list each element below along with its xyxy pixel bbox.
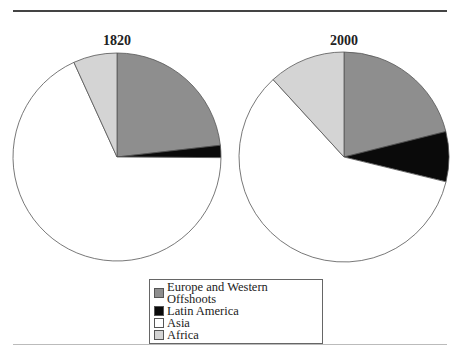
- legend-swatch-latin-america: [154, 306, 164, 316]
- legend-label: Europe and Western Offshoots: [167, 281, 318, 305]
- legend: Europe and Western Offshoots Latin Ameri…: [149, 279, 323, 344]
- legend-swatch-europe: [154, 288, 164, 298]
- pie-2000: [239, 52, 449, 262]
- legend-swatch-africa: [154, 330, 164, 340]
- pie-slice-1820-europe-and-western-offshoots: [117, 53, 220, 157]
- pie-1820: [13, 53, 221, 261]
- bottom-rule: [13, 344, 447, 345]
- legend-item-europe: Europe and Western Offshoots: [154, 281, 318, 305]
- legend-item-africa: Africa: [154, 329, 318, 341]
- pie-title-2000: 2000: [330, 33, 358, 48]
- legend-label: Africa: [167, 329, 199, 341]
- legend-swatch-asia: [154, 318, 164, 328]
- pie-title-1820: 1820: [103, 33, 131, 48]
